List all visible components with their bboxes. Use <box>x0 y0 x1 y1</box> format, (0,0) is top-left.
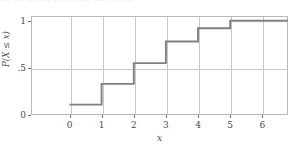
ytick-mark-0 <box>28 115 31 116</box>
xtick-label-5: 5 <box>227 120 233 130</box>
xtick-mark-4 <box>198 115 199 118</box>
cdf-step-chart: 0 1 2 3 4 5 6 0 .5 1 x P(X ≤ x) <box>0 0 298 150</box>
xtick-mark-0 <box>70 115 71 118</box>
xtick-mark-6 <box>262 115 263 118</box>
xtick-label-4: 4 <box>195 120 201 130</box>
ytick-mark-05 <box>28 68 31 69</box>
ytick-mark-1 <box>28 21 31 22</box>
ytick-label-1: 1 <box>14 16 26 26</box>
xtick-label-3: 3 <box>163 120 169 130</box>
xtick-label-0: 0 <box>67 120 73 130</box>
step-curve <box>31 16 288 115</box>
xtick-mark-2 <box>134 115 135 118</box>
xtick-label-2: 2 <box>131 120 137 130</box>
xtick-label-1: 1 <box>99 120 105 130</box>
x-axis-label: x <box>31 133 288 143</box>
xtick-mark-1 <box>102 115 103 118</box>
xtick-mark-5 <box>230 115 231 118</box>
ytick-label-05: .5 <box>14 63 26 73</box>
xtick-mark-3 <box>166 115 167 118</box>
xtick-label-6: 6 <box>259 120 265 130</box>
ytick-label-0: 0 <box>14 110 26 120</box>
y-axis-label: P(X ≤ x) <box>1 19 11 79</box>
